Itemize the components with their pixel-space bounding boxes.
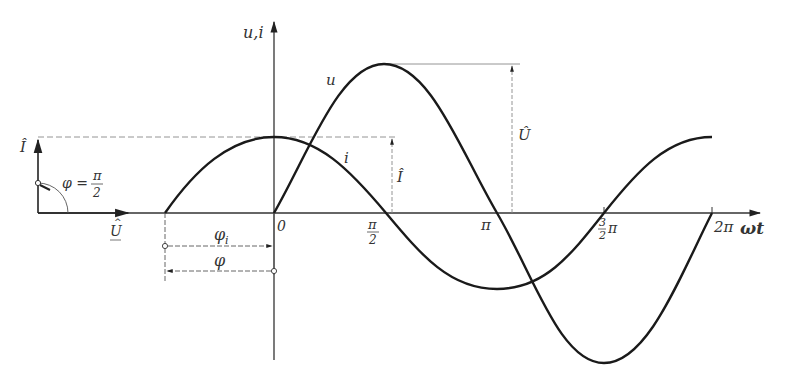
amplitude-i-label: Î xyxy=(396,168,404,186)
phi-i-subscript: i xyxy=(225,234,229,247)
phasor-angle-den: 2 xyxy=(92,186,101,200)
phi-label: φ xyxy=(214,251,226,270)
y-axis-label: u,i xyxy=(243,23,264,42)
tick-three-half-suffix: π xyxy=(607,220,618,236)
phasor-angle-num: π xyxy=(92,168,102,183)
tick-three-half-num: 3 xyxy=(599,216,606,229)
tick-origin: 0 xyxy=(277,218,286,234)
x-axis xyxy=(38,207,760,213)
svg-text:^: ^ xyxy=(114,217,122,227)
tick-half-pi-den: 2 xyxy=(368,233,377,247)
curve-i-label: i xyxy=(344,149,349,167)
amplitude-u-label: Û xyxy=(518,126,532,144)
tick-pi: π xyxy=(480,216,492,234)
curve-u-label: u xyxy=(326,71,336,89)
phasor-current-label: Î xyxy=(19,138,27,156)
phasor-angle-prefix: φ = xyxy=(62,175,88,191)
tick-three-half-den: 2 xyxy=(598,229,606,242)
amplitude-guides xyxy=(38,64,520,213)
x-axis-label: ωt xyxy=(740,218,764,238)
tick-half-pi-num: π xyxy=(367,217,377,232)
phase-shift-dimensions xyxy=(162,213,276,282)
sine-phase-diagram: u,i ωt u i 0 π 2 π 3 2 π 2π Û Î Î U ^ φ … xyxy=(0,0,789,386)
tick-two-pi: 2π xyxy=(713,218,735,236)
